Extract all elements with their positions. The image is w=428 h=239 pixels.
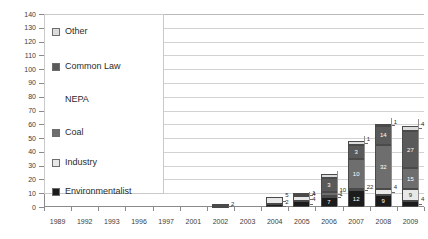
x-axis-tick-label: 2009 [395, 218, 425, 226]
x-axis-tick-label: 2003 [233, 218, 263, 226]
x-axis-tick [234, 207, 235, 211]
x-axis-tick-label: 2001 [178, 218, 208, 226]
bar-segment[interactable] [402, 201, 419, 207]
bar-stack[interactable] [185, 14, 202, 207]
x-axis-tick [125, 207, 126, 211]
stacked-bar-chart: 0102030405060708090100110120130140 19891… [0, 0, 428, 239]
legend-swatch-icon [52, 63, 60, 71]
bar-segment-label: 4 [421, 121, 428, 127]
legend-item-coal[interactable]: Coal [52, 128, 84, 137]
x-axis-tick-label: 1992 [70, 218, 100, 226]
bar-segment[interactable] [321, 192, 338, 196]
y-axis-tick-label: 0 [0, 204, 36, 211]
bar-segment-label: 4 [421, 196, 428, 202]
x-axis-tick-label: 2008 [368, 218, 398, 226]
total-whisker [309, 192, 310, 207]
y-axis-tick-label: 10 [0, 190, 36, 197]
x-axis-tick-label: 2004 [260, 218, 290, 226]
legend-item-environmentalist[interactable]: Environmentalist [52, 187, 132, 196]
bar-segment[interactable] [266, 204, 283, 207]
y-axis-tick-label: 60 [0, 121, 36, 128]
x-axis-tick [71, 207, 72, 211]
bar-segment-label: 3 [321, 182, 338, 188]
x-axis-tick [98, 207, 99, 211]
x-axis-tick [261, 207, 262, 211]
x-axis-tick [207, 207, 208, 211]
legend-item-common-law[interactable]: Common Law [52, 62, 121, 71]
legend-item-label: Industry [65, 158, 97, 167]
bar-segment[interactable] [293, 201, 310, 207]
legend-item-other[interactable]: Other [52, 27, 88, 36]
x-axis-tick [44, 207, 45, 211]
bar-segment[interactable] [212, 204, 229, 206]
bar-segment[interactable] [293, 196, 310, 202]
legend-item-label: Coal [65, 128, 84, 137]
bar-stack[interactable]: 9432141 [375, 14, 392, 207]
bar-segment-label: 14 [375, 132, 392, 138]
bar-segment[interactable] [348, 189, 365, 191]
total-whisker [391, 118, 392, 207]
x-axis-tick [315, 207, 316, 211]
legend-swatch-icon [52, 188, 60, 196]
y-axis-tick-label: 30 [0, 162, 36, 169]
bar-segment[interactable] [348, 141, 365, 145]
legend-item-nepa[interactable]: NEPA [52, 95, 89, 104]
bar-segment-label: 9 [402, 192, 419, 198]
x-axis-tick [288, 207, 289, 211]
legend-swatch-icon [52, 159, 60, 167]
y-axis-tick-label: 20 [0, 176, 36, 183]
legend-swatch-icon [52, 28, 60, 36]
bar-segment-label: 15 [402, 176, 419, 182]
x-axis-tick-label: 2005 [287, 218, 317, 226]
y-axis-tick-label: 120 [0, 38, 36, 45]
chart-legend: OtherCommon LawNEPACoalIndustryEnvironme… [44, 14, 164, 194]
y-axis-tick-label: 80 [0, 93, 36, 100]
bar-segment[interactable] [293, 193, 310, 195]
bar-stack[interactable]: 12221031 [348, 14, 365, 207]
x-axis-tick [397, 207, 398, 211]
legend-item-label: Environmentalist [65, 187, 132, 196]
x-axis-tick [180, 207, 181, 211]
x-axis-tick-label: 1996 [124, 218, 154, 226]
x-axis-tick-label: 2002 [205, 218, 235, 226]
bar-segment-label: 12 [348, 196, 365, 202]
bar-stack[interactable]: 2 [212, 14, 229, 207]
x-axis-tick [424, 207, 425, 211]
y-axis-tick-label: 50 [0, 135, 36, 142]
label-leader-line [282, 206, 286, 207]
y-axis-tick-label: 110 [0, 52, 36, 59]
bar-stack[interactable]: 71103 [321, 14, 338, 207]
y-axis-tick-label: 70 [0, 107, 36, 114]
y-axis-tick-label: 100 [0, 66, 36, 73]
total-whisker [337, 171, 338, 207]
legend-item-industry[interactable]: Industry [52, 158, 97, 167]
bar-stack[interactable]: 441 [293, 14, 310, 207]
legend-item-label: NEPA [65, 95, 89, 104]
bar-segment[interactable] [375, 124, 392, 126]
y-axis-tick-label: 130 [0, 24, 36, 31]
bar-segment[interactable] [375, 189, 392, 195]
y-axis-tick-label: 140 [0, 11, 36, 18]
x-axis-tick-label: 1989 [43, 218, 73, 226]
y-axis-tick-label: 90 [0, 79, 36, 86]
x-axis-tick [370, 207, 371, 211]
total-whisker [418, 119, 419, 207]
bar-stack[interactable] [239, 14, 256, 207]
bar-stack[interactable]: 25 [266, 14, 283, 207]
bar-segment-label: 3 [348, 149, 365, 155]
total-whisker [364, 136, 365, 207]
bar-segment[interactable] [266, 197, 283, 204]
bar-segment-label: 10 [348, 171, 365, 177]
bar-segment-label: 32 [375, 164, 392, 170]
bar-segment[interactable] [321, 196, 338, 198]
legend-item-label: Other [65, 27, 88, 36]
bar-stack[interactable]: 4915274 [402, 14, 419, 207]
y-axis-tick-label: 40 [0, 148, 36, 155]
legend-swatch-icon [52, 129, 60, 137]
label-leader-line [282, 201, 286, 202]
x-axis-tick-label: 2007 [341, 218, 371, 226]
bar-segment[interactable] [321, 174, 338, 178]
bar-segment[interactable] [402, 126, 419, 132]
bar-segment-label: 9 [375, 198, 392, 204]
legend-item-label: Common Law [65, 62, 121, 71]
